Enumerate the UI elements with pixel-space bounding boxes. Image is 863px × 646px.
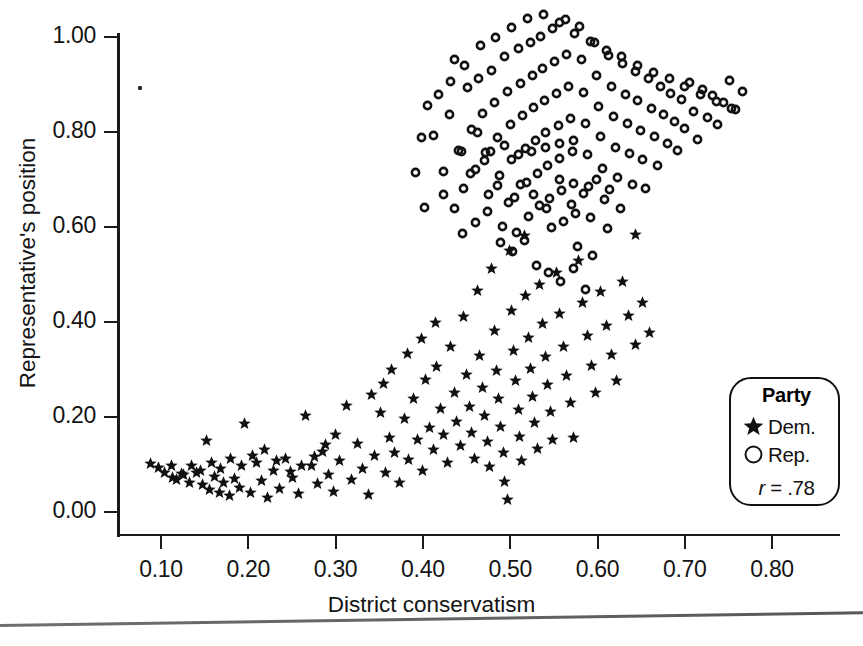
data-point-dem: [600, 319, 613, 332]
data-point-rep: [565, 113, 576, 124]
data-point-rep: [483, 189, 494, 200]
data-point-rep: [539, 95, 550, 106]
data-point-dem: [544, 405, 557, 418]
data-point-dem: [205, 456, 218, 469]
data-point-dem: [629, 338, 642, 351]
x-tick-label: 0.50: [470, 556, 550, 583]
data-point-dem: [512, 403, 525, 416]
data-point-rep: [531, 260, 542, 271]
data-point-dem: [423, 421, 436, 434]
legend-label-rep: Rep.: [768, 443, 810, 467]
data-point-rep: [475, 40, 486, 51]
data-point-rep: [669, 116, 680, 127]
data-point-rep: [428, 130, 439, 141]
data-point-rep: [664, 73, 675, 84]
data-point-rep: [506, 22, 517, 33]
data-point-rep: [449, 203, 460, 214]
data-point-dem: [485, 262, 498, 275]
data-point-rep: [587, 250, 598, 261]
legend-label-dem: Dem.: [768, 415, 815, 439]
data-point-rep: [688, 106, 699, 117]
data-point-rep: [528, 102, 539, 113]
data-point-dem: [509, 374, 522, 387]
x-tick-label: 0.70: [645, 556, 725, 583]
y-tick: [104, 131, 117, 133]
data-point-rep: [473, 73, 484, 84]
data-point-dem: [374, 406, 387, 419]
data-point-rep: [513, 149, 524, 160]
data-point-rep: [582, 149, 593, 160]
data-point-dem: [273, 482, 286, 495]
data-point-dem: [246, 449, 259, 462]
data-point-rep: [528, 189, 539, 200]
data-point-rep: [601, 45, 612, 56]
circle-marker-icon: [740, 444, 766, 465]
x-tick: [771, 536, 773, 549]
data-point-rep: [712, 119, 723, 130]
x-tick-label: 0.30: [296, 556, 376, 583]
data-point-rep: [563, 81, 574, 92]
data-point-rep: [485, 146, 496, 157]
data-point-rep: [513, 43, 524, 54]
data-point-dem: [476, 381, 489, 394]
data-point-rep: [419, 202, 430, 213]
x-tick: [160, 536, 162, 549]
data-point-dem: [507, 344, 520, 357]
data-point-rep: [615, 203, 626, 214]
data-point-dem: [450, 415, 463, 428]
data-point-rep: [612, 172, 623, 183]
data-point-dem: [398, 412, 411, 425]
data-point-rep: [505, 119, 516, 130]
y-tick: [104, 226, 117, 228]
data-point-dem: [576, 296, 589, 309]
data-point-rep: [549, 56, 560, 67]
data-point-rep: [569, 28, 580, 39]
data-point-rep: [541, 203, 552, 214]
data-point-dem: [356, 462, 369, 475]
data-point-dem: [605, 348, 618, 361]
data-point-dem: [441, 456, 454, 469]
data-point-rep: [537, 63, 548, 74]
x-tick-label: 0.60: [558, 556, 638, 583]
data-point-rep: [627, 179, 638, 190]
data-point-rep: [555, 276, 566, 287]
data-point-rep: [658, 109, 669, 120]
data-point-rep: [648, 67, 659, 78]
scatter-plot-figure: 1.000.800.600.400.200.00 0.100.200.300.4…: [0, 0, 863, 646]
data-point-dem: [427, 443, 440, 456]
data-point-dem: [483, 460, 496, 473]
data-point-dem: [478, 409, 491, 422]
y-tick-label: 1.00: [24, 22, 96, 49]
data-point-rep: [632, 60, 643, 71]
data-point-rep: [477, 108, 488, 119]
data-point-dem: [501, 493, 514, 506]
data-point-dem: [385, 363, 398, 376]
data-point-dem: [430, 360, 443, 373]
data-point-rep: [532, 168, 543, 179]
data-point-rep: [649, 131, 660, 142]
data-point-rep: [737, 86, 748, 97]
data-point-dem: [401, 347, 414, 360]
data-point-dem: [429, 316, 442, 329]
data-point-dem: [560, 369, 573, 382]
data-point-rep: [554, 153, 565, 164]
data-point-rep: [640, 183, 651, 194]
data-point-rep: [676, 94, 687, 105]
data-point-rep: [632, 95, 643, 106]
data-point-dem: [284, 465, 297, 478]
data-point-dem: [416, 464, 429, 477]
data-point-dem: [526, 390, 539, 403]
data-point-dem: [468, 452, 481, 465]
data-point-dem: [437, 428, 450, 441]
data-point-dem: [200, 434, 213, 447]
x-tick: [509, 536, 511, 549]
data-point-rep: [507, 246, 518, 257]
data-point-dem: [415, 332, 428, 345]
data-point-rep: [456, 146, 467, 157]
data-point-dem: [255, 474, 268, 487]
data-point-rep: [561, 49, 572, 60]
data-point-rep: [465, 168, 476, 179]
data-point-dem: [166, 471, 179, 484]
data-point-rep: [556, 185, 567, 196]
data-point-dem: [402, 453, 415, 466]
